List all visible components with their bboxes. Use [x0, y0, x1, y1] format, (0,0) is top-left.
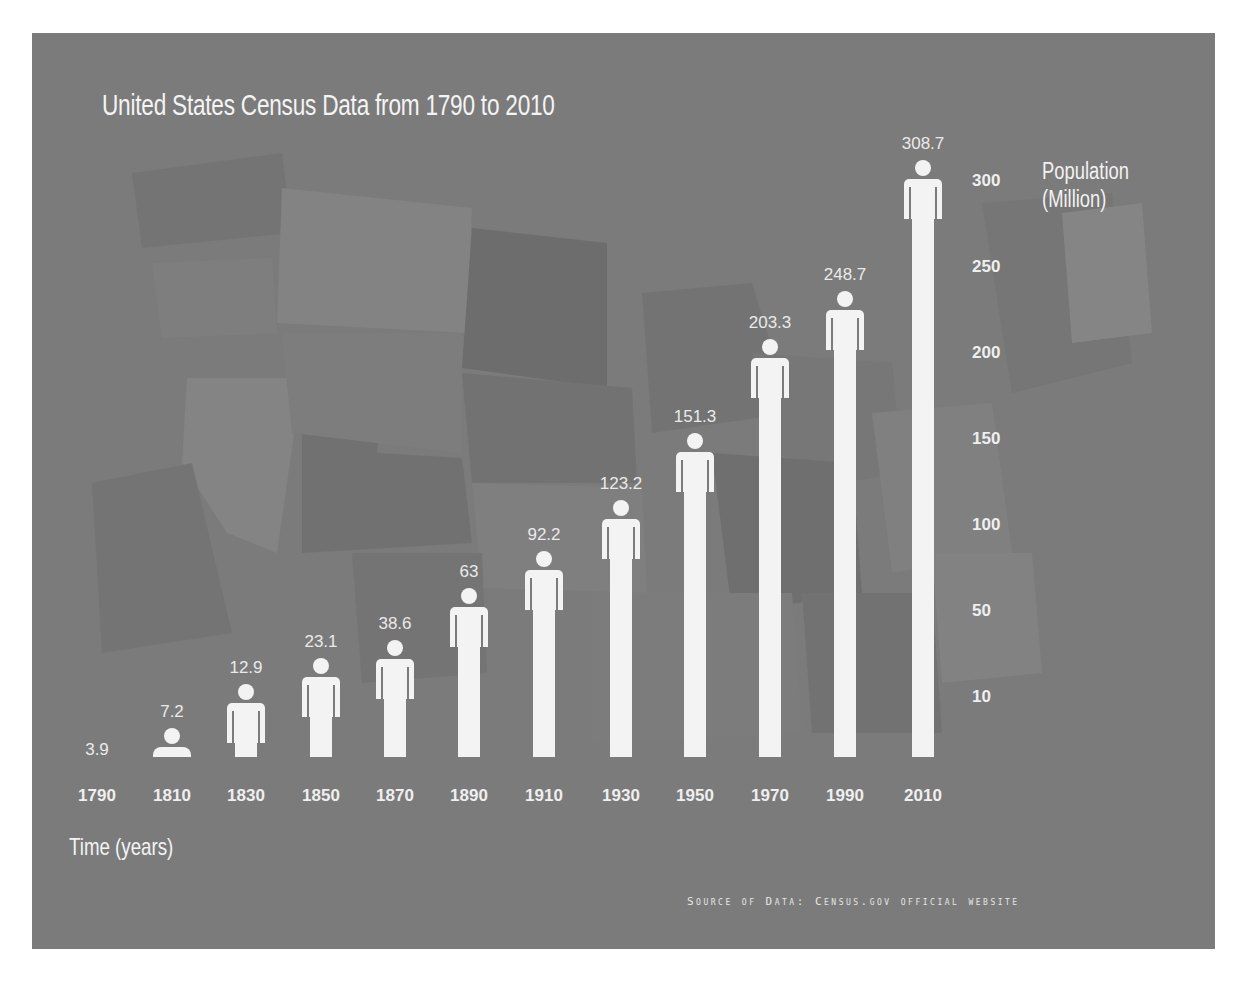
y-tick-label: 300 — [972, 171, 1032, 191]
value-label: 151.3 — [655, 407, 735, 427]
figure-head-icon — [387, 640, 403, 656]
figure-bar — [533, 576, 555, 757]
x-tick-label: 2010 — [893, 786, 953, 806]
x-tick-label: 1850 — [291, 786, 351, 806]
arm-gap — [455, 615, 457, 647]
value-label: 7.2 — [132, 702, 212, 722]
arm-gap — [232, 711, 234, 743]
figure-head-icon — [837, 291, 853, 307]
arm-gap — [333, 685, 335, 717]
x-tick-label: 1950 — [665, 786, 725, 806]
x-tick-label: 1790 — [67, 786, 127, 806]
figure-bar — [235, 709, 257, 757]
arm-gap — [556, 578, 558, 610]
figure-head-icon — [915, 160, 931, 176]
value-label: 248.7 — [805, 265, 885, 285]
figure-head-icon — [461, 588, 477, 604]
x-axis-label: Time (years) — [69, 833, 173, 861]
arm-gap — [782, 366, 784, 398]
arm-gap — [707, 460, 709, 492]
figure-bar — [384, 665, 406, 757]
source-note: Source of Data: Census.gov official webs… — [687, 895, 1020, 908]
figure-head-icon — [762, 339, 778, 355]
arm-gap — [756, 366, 758, 398]
y-axis-label: Population (Million) — [1042, 157, 1129, 213]
y-axis-label-line1: Population — [1042, 157, 1129, 185]
value-label: 308.7 — [883, 134, 963, 154]
x-tick-label: 1870 — [365, 786, 425, 806]
figure-bar — [458, 613, 480, 757]
value-label: 23.1 — [281, 632, 361, 652]
value-label: 203.3 — [730, 313, 810, 333]
arm-gap — [607, 527, 609, 559]
x-tick-label: 1990 — [815, 786, 875, 806]
value-label: 92.2 — [504, 525, 584, 545]
figure-head-icon — [313, 658, 329, 674]
arm-gap — [633, 527, 635, 559]
arm-gap — [481, 615, 483, 647]
chart-title: United States Census Data from 1790 to 2… — [102, 89, 555, 122]
figure-head-icon — [687, 433, 703, 449]
arm-gap — [831, 318, 833, 350]
y-axis-label-line2: (Million) — [1042, 185, 1129, 213]
y-tick-label: 100 — [972, 515, 1032, 535]
value-label: 63 — [429, 562, 509, 582]
figure-head-icon — [536, 551, 552, 567]
arm-gap — [681, 460, 683, 492]
y-tick-label: 200 — [972, 343, 1032, 363]
figure-head-icon — [613, 500, 629, 516]
value-label: 12.9 — [206, 658, 286, 678]
figure-head-icon — [164, 728, 180, 744]
x-tick-label: 1930 — [591, 786, 651, 806]
figure-bar — [310, 683, 332, 757]
arm-gap — [407, 667, 409, 699]
value-label: 3.9 — [57, 740, 137, 760]
y-tick-label: 50 — [972, 601, 1032, 621]
x-tick-label: 1910 — [514, 786, 574, 806]
figure-bar — [759, 364, 781, 757]
figure-bar — [610, 525, 632, 757]
figure-bar — [912, 185, 934, 757]
arm-gap — [381, 667, 383, 699]
chart-card: United States Census Data from 1790 to 2… — [32, 33, 1215, 949]
figure-bar — [834, 316, 856, 757]
figure-head-icon — [238, 684, 254, 700]
arm-gap — [530, 578, 532, 610]
figure-bar — [684, 458, 706, 757]
arm-gap — [935, 187, 937, 219]
x-tick-label: 1830 — [216, 786, 276, 806]
value-label: 38.6 — [355, 614, 435, 634]
x-tick-label: 1810 — [142, 786, 202, 806]
y-tick-label: 10 — [972, 687, 1032, 707]
value-label: 123.2 — [581, 474, 661, 494]
y-tick-label: 250 — [972, 257, 1032, 277]
arm-gap — [857, 318, 859, 350]
figure-body-icon — [153, 747, 191, 757]
arm-gap — [307, 685, 309, 717]
arm-gap — [909, 187, 911, 219]
arm-gap — [258, 711, 260, 743]
x-tick-label: 1890 — [439, 786, 499, 806]
y-tick-label: 150 — [972, 429, 1032, 449]
x-tick-label: 1970 — [740, 786, 800, 806]
